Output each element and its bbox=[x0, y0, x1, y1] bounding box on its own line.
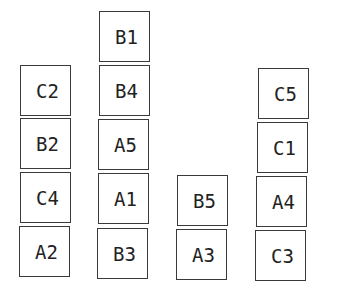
blocks-diagram: C2 B2 C4 A2 B1 B4 A5 A1 B3 B5 A3 C5 C1 A… bbox=[0, 0, 343, 295]
block-label: B2 bbox=[36, 133, 59, 155]
block-label: A4 bbox=[272, 191, 295, 213]
block-a3: A3 bbox=[176, 229, 227, 280]
block-c3: C3 bbox=[255, 230, 306, 281]
block-a4: A4 bbox=[256, 176, 307, 227]
block-a2: A2 bbox=[19, 226, 70, 277]
block-label: C5 bbox=[274, 83, 297, 105]
block-label: B4 bbox=[115, 80, 138, 102]
block-a5: A5 bbox=[98, 119, 149, 170]
block-label: C3 bbox=[271, 245, 294, 267]
block-b4: B4 bbox=[99, 65, 150, 116]
block-b1: B1 bbox=[99, 11, 150, 62]
block-a1: A1 bbox=[98, 173, 149, 224]
block-label: A5 bbox=[114, 134, 137, 156]
block-c2: C2 bbox=[20, 65, 71, 116]
block-b3: B3 bbox=[97, 228, 148, 279]
block-b2: B2 bbox=[20, 118, 71, 169]
block-b5: B5 bbox=[177, 175, 228, 226]
block-label: C1 bbox=[273, 137, 296, 159]
block-label: B1 bbox=[115, 26, 138, 48]
block-label: C4 bbox=[36, 187, 59, 209]
block-c1: C1 bbox=[257, 122, 308, 173]
block-c5: C5 bbox=[258, 68, 309, 119]
block-label: A3 bbox=[192, 244, 215, 266]
block-label: A2 bbox=[35, 241, 58, 263]
block-c4: C4 bbox=[20, 172, 71, 223]
block-label: B3 bbox=[113, 243, 136, 265]
block-label: A1 bbox=[114, 188, 137, 210]
block-label: B5 bbox=[193, 190, 216, 212]
block-label: C2 bbox=[36, 80, 59, 102]
